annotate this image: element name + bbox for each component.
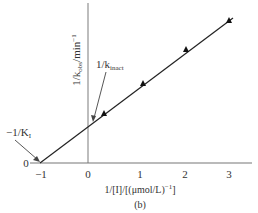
x-tick-2: 2 — [182, 168, 188, 180]
ki-label: −1/KI — [6, 126, 32, 140]
fit-line — [40, 18, 233, 163]
data-point-triangle — [140, 80, 146, 86]
x-tick-1: 1 — [137, 168, 143, 180]
figure-caption: (b) — [134, 199, 146, 211]
x-axis-label: 1/[I]/[(μmol/L)−1] — [104, 183, 175, 196]
svg-text:1/kobs/min−1: 1/kobs/min−1 — [70, 34, 84, 86]
x-tick-0: 0 — [85, 168, 91, 180]
y-axis-label: 1/kobs/min−1 — [70, 34, 84, 86]
data-point-triangle — [183, 46, 189, 52]
x-tick-3: 3 — [226, 168, 232, 180]
kinact-label: 1/kinact — [96, 58, 124, 72]
chart: −1 0 1 2 3 0 1/kobs/min−1 1/kinact −1/KI… — [0, 0, 258, 213]
x-tick-neg1: −1 — [35, 168, 47, 180]
y-tick-0: 0 — [23, 157, 29, 169]
